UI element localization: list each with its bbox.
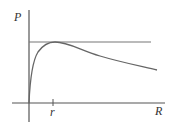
- power-vs-resistance-chart: P R r: [0, 0, 172, 127]
- y-axis-label: P: [13, 10, 22, 24]
- r-tick-label: r: [50, 105, 55, 119]
- x-axis-label: R: [154, 104, 163, 118]
- power-curve: [29, 42, 157, 103]
